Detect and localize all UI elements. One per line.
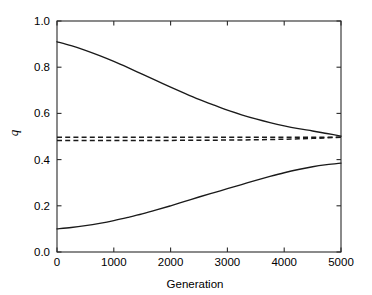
x-tick-label: 2000	[158, 256, 184, 268]
line-chart: 010002000300040005000 0.00.20.40.60.81.0…	[0, 0, 372, 295]
y-tick-label: 0.8	[34, 61, 50, 73]
y-tick-label: 0.2	[34, 200, 50, 212]
x-tick-label: 4000	[271, 256, 297, 268]
x-tick-label: 5000	[328, 256, 354, 268]
y-tick-label: 0.4	[34, 154, 51, 166]
y-axis-title: q	[6, 129, 21, 136]
chart-figure: 010002000300040005000 0.00.20.40.60.81.0…	[0, 0, 372, 295]
x-tick-label: 0	[54, 256, 60, 268]
x-tick-label: 3000	[215, 256, 241, 268]
y-tick-label: 0.6	[34, 107, 50, 119]
y-tick-label: 1.0	[34, 15, 50, 27]
y-tick-label: 0.0	[34, 246, 50, 258]
x-axis-title: Generation	[167, 278, 224, 290]
x-tick-label: 1000	[101, 256, 127, 268]
chart-background	[0, 0, 372, 295]
